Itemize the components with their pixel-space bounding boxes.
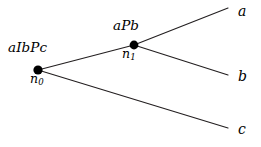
edge-root-to-n1 (38, 45, 134, 70)
node-n1-name-subscript: 1 (130, 52, 135, 62)
edge-root-to-leaf-c (38, 70, 228, 128)
derivation-tree-diagram: aIbPc n0 aPb n1 a b c (0, 0, 261, 147)
node-n0-name-base: n (30, 71, 38, 86)
node-n1-name-base: n (122, 46, 130, 61)
leaf-label-a: a (238, 4, 246, 18)
node-n1-state-label: aPb (113, 19, 139, 33)
node-n1-name-label: n1 (122, 48, 136, 62)
edge-n1-to-leaf-a (134, 8, 228, 45)
node-n0-name-label: n0 (30, 73, 44, 87)
node-n0-state-label: aIbPc (8, 41, 47, 55)
leaf-label-c: c (238, 122, 246, 136)
node-n0-name-subscript: 0 (38, 77, 43, 87)
leaf-label-b: b (238, 69, 247, 83)
edge-n1-to-leaf-b (134, 45, 228, 75)
